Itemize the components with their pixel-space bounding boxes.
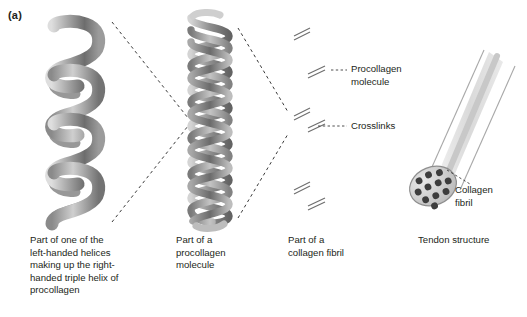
connector-procollagen-to-fibril — [238, 28, 288, 218]
annotation-crosslinks: Crosslinks — [351, 120, 437, 133]
caption-tendon-structure: Tendon structure — [418, 234, 527, 247]
annotation-procollagen-molecule: Procollagen molecule — [351, 63, 437, 88]
caption-collagen-fibril: Part of a collagen fibril — [288, 234, 378, 259]
caption-left-handed-helix: Part of one of the left-handed helices m… — [30, 234, 150, 297]
caption-procollagen-molecule: Part of a procollagen molecule — [176, 234, 272, 272]
collagen-structure-figure: (a) — [0, 0, 527, 317]
procollagen-molecule-illustration — [191, 12, 229, 228]
collagen-fibril-illustration — [294, 18, 347, 240]
fibril-rods — [295, 18, 324, 240]
annotation-collagen-fibril: Collagen fibril — [455, 184, 525, 209]
left-handed-helix-illustration — [52, 21, 99, 224]
connector-helix-to-procollagen — [112, 22, 188, 222]
fibril-annotation-leaders — [318, 70, 347, 126]
